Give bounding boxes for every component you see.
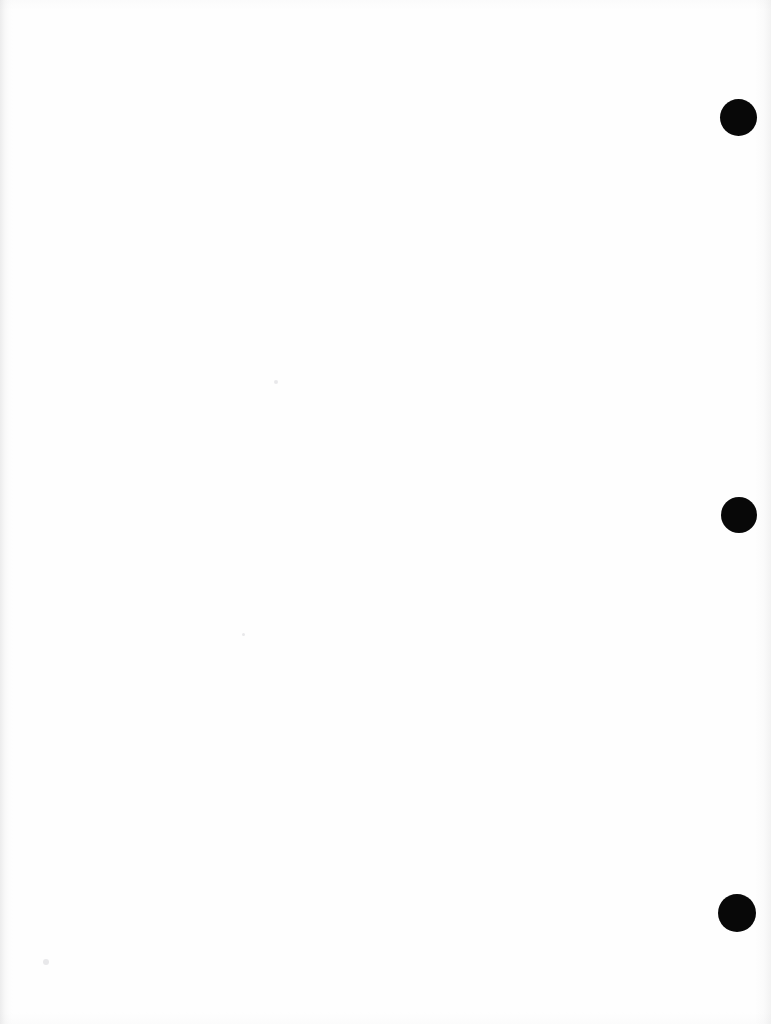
- middle-punch-hole: [721, 497, 757, 533]
- scanned-page: [0, 0, 771, 1024]
- page-content-area: [0, 0, 771, 1024]
- top-punch-hole: [720, 99, 757, 136]
- bottom-punch-hole: [718, 894, 756, 932]
